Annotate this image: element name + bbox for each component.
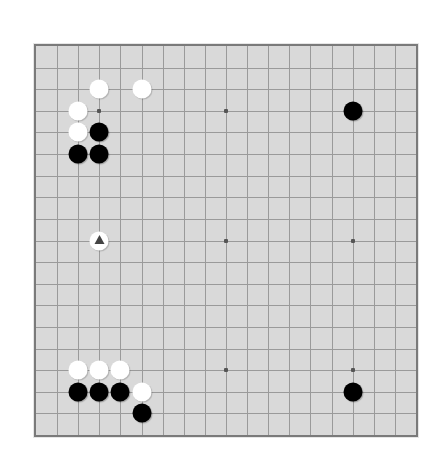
white-stone[interactable] [90,231,109,250]
triangle-marker-icon [94,235,104,244]
white-stone[interactable] [69,101,88,120]
black-stone[interactable] [343,382,362,401]
white-stone[interactable] [90,361,109,380]
white-stone[interactable] [69,123,88,142]
black-stone[interactable] [90,382,109,401]
grid-line-horizontal [36,262,416,263]
white-stone[interactable] [111,361,130,380]
grid-line-vertical [247,46,248,435]
black-stone[interactable] [90,123,109,142]
black-stone[interactable] [111,382,130,401]
grid-line-vertical [395,46,396,435]
grid-line-horizontal [36,413,416,414]
star-point [351,239,355,243]
white-stone[interactable] [132,382,151,401]
black-stone[interactable] [90,145,109,164]
black-stone[interactable] [132,404,151,423]
star-point [351,368,355,372]
star-point [224,239,228,243]
go-board[interactable] [34,44,418,437]
grid-line-vertical [289,46,290,435]
grid-line-vertical [374,46,375,435]
grid-line-horizontal [36,349,416,350]
grid-line-vertical [268,46,269,435]
grid-line-horizontal [36,284,416,285]
grid-line-vertical [310,46,311,435]
grid-line-vertical [332,46,333,435]
grid-line-horizontal [36,327,416,328]
white-stone[interactable] [69,361,88,380]
grid-line-horizontal [36,305,416,306]
star-point [97,109,101,113]
star-point [224,368,228,372]
white-stone[interactable] [132,80,151,99]
black-stone[interactable] [69,382,88,401]
black-stone[interactable] [343,101,362,120]
black-stone[interactable] [69,145,88,164]
star-point [224,109,228,113]
white-stone[interactable] [90,80,109,99]
